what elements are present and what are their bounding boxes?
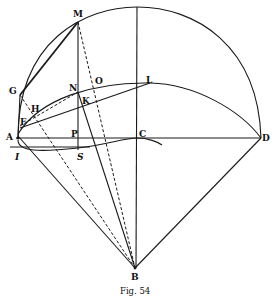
label-H: H	[31, 104, 40, 114]
geometric-figure: M N O L G H K F A P C D I S B Fig. 54	[0, 0, 275, 298]
lower-curve-ISC	[18, 138, 162, 150]
label-K: K	[82, 96, 91, 106]
label-S: S	[77, 152, 84, 162]
point-A-marker	[16, 136, 19, 139]
label-O: O	[95, 76, 103, 86]
label-C: C	[139, 129, 146, 139]
label-N: N	[69, 83, 77, 93]
line-FN-dashed	[20, 92, 78, 126]
label-M: M	[73, 9, 83, 19]
label-I: I	[14, 152, 20, 162]
label-B: B	[131, 272, 139, 282]
label-P: P	[71, 129, 78, 139]
line-NB	[78, 92, 135, 268]
label-D: D	[262, 133, 270, 143]
figure-caption: Fig. 54	[120, 286, 150, 296]
line-DB	[135, 138, 261, 268]
point-B-marker	[134, 267, 137, 270]
label-G: G	[9, 86, 17, 96]
label-L: L	[146, 75, 153, 85]
label-F: F	[20, 117, 27, 127]
label-A: A	[5, 132, 14, 142]
outer-arc	[18, 7, 261, 138]
dashed-line-MB	[78, 22, 135, 268]
